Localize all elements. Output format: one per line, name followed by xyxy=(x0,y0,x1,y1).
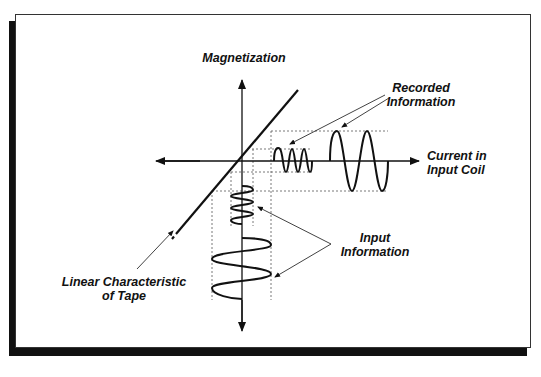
diagram-canvas: Magnetization Recorded Information Curre… xyxy=(0,0,541,377)
current-in-input-coil-label-line2: Input Coil xyxy=(427,163,485,177)
magnetization-label: Magnetization xyxy=(202,51,286,65)
recorded-information-label-line2: Information xyxy=(387,95,456,109)
input-information-label-line1: Input xyxy=(360,231,391,245)
input-information-label-line2: Information xyxy=(341,245,410,259)
linear-characteristic-label-line1: Linear Characteristic xyxy=(62,275,186,289)
linear-characteristic-label-line2: of Tape xyxy=(102,289,146,303)
recorded-small-wave xyxy=(274,148,312,172)
current-in-input-coil-label-line1: Current in xyxy=(427,149,487,163)
recorded-information-label-line1: Recorded xyxy=(392,81,450,95)
linear-characteristic-line xyxy=(176,90,298,234)
projection-guides xyxy=(212,131,388,300)
linear-characteristic-tail xyxy=(172,237,174,240)
